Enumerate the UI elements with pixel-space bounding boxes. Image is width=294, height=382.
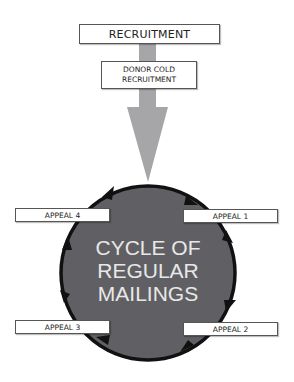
appeal-1-label: APPEAL 1 [213,212,248,221]
recruitment-label: RECRUITMENT [109,28,191,41]
appeal-3-box: APPEAL 3 [15,320,110,334]
donor-cold-line1: DONOR COLD [122,65,176,75]
recruitment-box: RECRUITMENT [79,24,220,44]
appeal-4-label: APPEAL 4 [45,211,80,220]
appeal-3-label: APPEAL 3 [45,323,80,332]
donor-cold-line2: RECRUITMENT [122,75,176,85]
cycle-line1: CYCLE OF [60,236,236,259]
appeal-4-box: APPEAL 4 [15,208,110,222]
appeal-2-label: APPEAL 2 [213,325,248,334]
cycle-line3: MAILINGS [60,282,236,305]
cycle-line2: REGULAR [60,259,236,282]
donor-cold-recruitment-box: DONOR COLD RECRUITMENT [101,61,197,89]
cycle-label: CYCLE OF REGULAR MAILINGS [60,236,236,305]
appeal-2-box: APPEAL 2 [183,322,278,336]
appeal-1-box: APPEAL 1 [183,209,278,223]
